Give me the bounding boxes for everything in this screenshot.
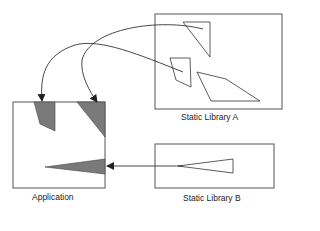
- lib-b-shape: [178, 159, 233, 173]
- library-a-box: [155, 14, 282, 109]
- library-a-label: Static Library A: [181, 112, 238, 122]
- lib-a-shape-2: [170, 58, 191, 87]
- library-b-label: Static Library B: [183, 193, 241, 203]
- lib-a-shape-3: [197, 72, 260, 101]
- application-label: Application: [32, 192, 74, 202]
- arrow-liba-to-app-1: [82, 25, 203, 102]
- arrow-liba-to-app-2: [42, 43, 183, 101]
